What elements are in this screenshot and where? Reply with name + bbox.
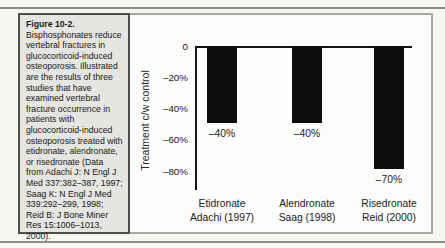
y-axis-tick-labels: 0–20%–40%–60%–80% xyxy=(131,46,188,196)
y-tick-label: –40% xyxy=(131,103,188,114)
bar-risedronate xyxy=(374,46,404,169)
category-study-ref: Reid (2000) xyxy=(334,211,444,225)
plot-area: –40%EtidronateAdachi (1997)–40%Alendrona… xyxy=(195,46,412,236)
page-rule-bottom xyxy=(0,241,445,243)
y-tick-label: 0 xyxy=(131,41,188,52)
category-drug-name: Risedronate xyxy=(334,197,444,211)
bar-value-label: –40% xyxy=(190,128,254,140)
bar-chart: Treatment c/w control 0–20%–40%–60%–80% … xyxy=(131,15,431,232)
y-tick-label: –80% xyxy=(131,166,188,177)
figure-box: Figure 10-2. Bisphosphonates reduce vert… xyxy=(18,13,433,234)
bar-value-label: –40% xyxy=(275,128,339,140)
page-rule-top xyxy=(0,7,445,9)
y-axis-line xyxy=(195,46,197,190)
figure-caption-text: Bisphosphonates reduce vertebral fractur… xyxy=(26,30,123,242)
bar-value-label: –70% xyxy=(357,174,421,186)
bar-alendronate xyxy=(292,46,322,123)
figure-caption-panel: Figure 10-2. Bisphosphonates reduce vert… xyxy=(18,13,130,234)
y-tick-label: –20% xyxy=(131,72,188,83)
bar-etidronate xyxy=(207,46,237,123)
figure-label: Figure 10-2. xyxy=(26,19,123,30)
x-category-label: RisedronateReid (2000) xyxy=(334,197,444,224)
y-tick-label: –60% xyxy=(131,134,188,145)
